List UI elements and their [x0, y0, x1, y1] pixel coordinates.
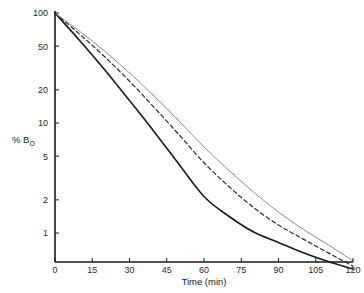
chart-canvas: 100502010521 0153045607590105120 Time (m… — [0, 0, 364, 293]
y-tick-label: 5 — [43, 152, 48, 162]
x-tick-label: 30 — [124, 265, 134, 275]
x-tick-label: 60 — [199, 265, 209, 275]
x-tick-label: 15 — [87, 265, 97, 275]
y-axis-title-main: % B — [12, 134, 29, 145]
y-tick-label: 2 — [43, 195, 48, 205]
y-tick-label: 100 — [33, 8, 48, 18]
y-tick-label: 1 — [43, 228, 48, 238]
x-tick-label: 105 — [308, 265, 323, 275]
x-tick-label: 75 — [236, 265, 246, 275]
x-tick-label: 90 — [273, 265, 283, 275]
x-tick-label: 45 — [162, 265, 172, 275]
y-tick-label: 20 — [38, 85, 48, 95]
y-tick-label: 10 — [38, 118, 48, 128]
x-tick-label: 120 — [345, 265, 360, 275]
chart-figure: 100502010521 0153045607590105120 Time (m… — [0, 0, 364, 293]
y-tick-label: 50 — [38, 42, 48, 52]
y-axis-title-subscript: O — [29, 140, 35, 147]
x-tick-label: 0 — [52, 265, 57, 275]
x-axis-title: Time (min) — [181, 276, 226, 287]
